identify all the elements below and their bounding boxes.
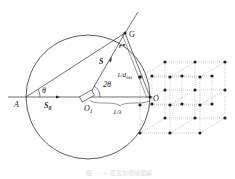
s0-arrow-icon [56, 96, 60, 99]
label-O: O [153, 94, 159, 103]
vector-r-star [125, 33, 150, 97]
label-theta: θ [42, 86, 46, 95]
figure-caption: 图 — — 厄瓦尔德球图解 [86, 169, 152, 177]
crystal-sample [79, 90, 94, 102]
label-S0: S0 [44, 101, 51, 111]
theta-arc [38, 89, 40, 97]
label-d-hkl: 1/dhkl [117, 71, 133, 80]
label-A: A [13, 100, 19, 109]
two-theta-arc [94, 86, 100, 97]
point-hkl [138, 75, 141, 78]
label-inv-lambda: 1/λ [113, 108, 121, 116]
label-O1: O1 [84, 104, 93, 114]
label-r-star: r* [119, 42, 126, 50]
ewald-sphere-diagram: A θ S0 O1 2θ 1/λ S G r* 1/dhkl O 图 — — 厄… [0, 0, 235, 179]
point-O [148, 95, 151, 98]
label-two-theta: 2θ [103, 80, 111, 89]
point-G [124, 32, 127, 35]
label-G: G [129, 30, 135, 39]
label-S: S [99, 57, 104, 66]
